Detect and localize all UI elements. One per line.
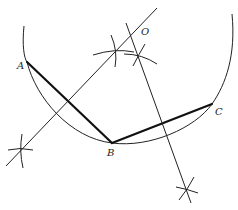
label-c: C [215,106,223,117]
label-b: B [106,147,114,158]
label-a: A [16,60,24,71]
geometry-diagram: A B C O [0,0,238,210]
perpendicular-bisector-bc [126,23,191,203]
perpendicular-bisector-ab [6,8,157,166]
label-o: O [141,26,149,37]
circle-arc [23,14,233,144]
compass-arc-mark [21,134,23,168]
